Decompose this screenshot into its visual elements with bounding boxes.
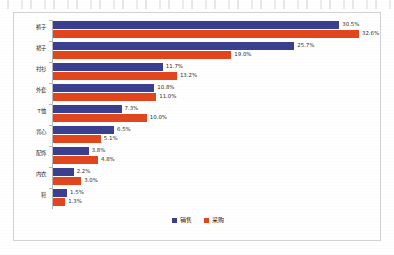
legend-entry-采购[interactable]: 采购 (204, 216, 224, 224)
axis-tick (49, 188, 52, 189)
bar-采购[interactable] (53, 30, 359, 38)
category-label: 背心 (14, 129, 46, 136)
bar-销售[interactable] (53, 63, 163, 71)
bar-group: 鞋1.5%1.3% (14, 188, 382, 209)
legend-entry-销售[interactable]: 销售 (172, 216, 192, 224)
legend-swatch-icon (172, 218, 177, 223)
bar-value-label: 6.5% (117, 126, 131, 133)
bar-value-label: 13.2% (180, 72, 197, 79)
bar-采购[interactable] (53, 135, 101, 143)
scan-noise-band (0, 0, 394, 9)
bar-group: 裙子25.7%19.0% (14, 41, 382, 62)
bar-销售[interactable] (53, 189, 67, 197)
bar-value-label: 5.1% (104, 135, 118, 142)
bar-value-label: 25.7% (297, 42, 314, 49)
category-label: 配饰 (14, 150, 46, 157)
bar-采购[interactable] (53, 72, 177, 80)
bar-group: 裤子30.5%32.6% (14, 20, 382, 41)
bar-采购[interactable] (53, 177, 81, 185)
category-label: 外套 (14, 87, 46, 94)
category-label: T恤 (14, 108, 46, 115)
axis-tick (49, 167, 52, 168)
bar-销售[interactable] (53, 105, 122, 113)
bar-采购[interactable] (53, 93, 156, 101)
legend-swatch-icon (204, 218, 209, 223)
axis-tick (49, 41, 52, 42)
category-label: 衬衫 (14, 66, 46, 73)
category-label: 裤子 (14, 24, 46, 31)
bar-采购[interactable] (53, 198, 65, 206)
bar-value-label: 4.8% (101, 156, 115, 163)
bar-value-label: 32.6% (362, 30, 379, 37)
bar-group: 背心6.5%5.1% (14, 125, 382, 146)
axis-tick (49, 125, 52, 126)
bar-销售[interactable] (53, 126, 114, 134)
bar-value-label: 30.5% (342, 21, 359, 28)
legend-label: 采购 (212, 216, 224, 224)
bar-value-label: 1.3% (68, 198, 82, 205)
bar-value-label: 3.0% (84, 177, 98, 184)
bar-group: 配饰3.8%4.8% (14, 146, 382, 167)
bar-value-label: 10.8% (157, 84, 174, 91)
bar-value-label: 11.7% (166, 63, 183, 70)
chart-frame: 裤子30.5%32.6%裙子25.7%19.0%衬衫11.7%13.2%外套10… (13, 12, 381, 241)
category-label: 裙子 (14, 45, 46, 52)
legend-label: 销售 (180, 216, 192, 224)
axis-tick (49, 62, 52, 63)
bar-value-label: 11.0% (159, 93, 176, 100)
bar-group: 衬衫11.7%13.2% (14, 62, 382, 83)
chart-legend: 销售采购 (14, 216, 382, 224)
bar-采购[interactable] (53, 114, 147, 122)
bar-采购[interactable] (53, 156, 98, 164)
bar-group: 内衣2.2%3.0% (14, 167, 382, 188)
bar-value-label: 2.2% (77, 168, 91, 175)
plot-area: 裤子30.5%32.6%裙子25.7%19.0%衬衫11.7%13.2%外套10… (14, 13, 382, 213)
bar-销售[interactable] (53, 147, 89, 155)
bar-value-label: 10.0% (150, 114, 167, 121)
axis-tick (49, 20, 52, 21)
bar-销售[interactable] (53, 42, 294, 50)
category-label: 内衣 (14, 171, 46, 178)
axis-tick (49, 83, 52, 84)
bar-value-label: 3.8% (92, 147, 106, 154)
axis-tick (49, 104, 52, 105)
bar-销售[interactable] (53, 168, 74, 176)
bar-value-label: 1.5% (70, 189, 84, 196)
category-label: 鞋 (14, 192, 46, 199)
bar-value-label: 19.0% (234, 51, 251, 58)
bar-value-label: 7.3% (125, 105, 139, 112)
bar-group: 外套10.8%11.0% (14, 83, 382, 104)
bar-销售[interactable] (53, 21, 339, 29)
axis-tick (49, 146, 52, 147)
bar-采购[interactable] (53, 51, 231, 59)
bar-group: T恤7.3%10.0% (14, 104, 382, 125)
bar-销售[interactable] (53, 84, 154, 92)
